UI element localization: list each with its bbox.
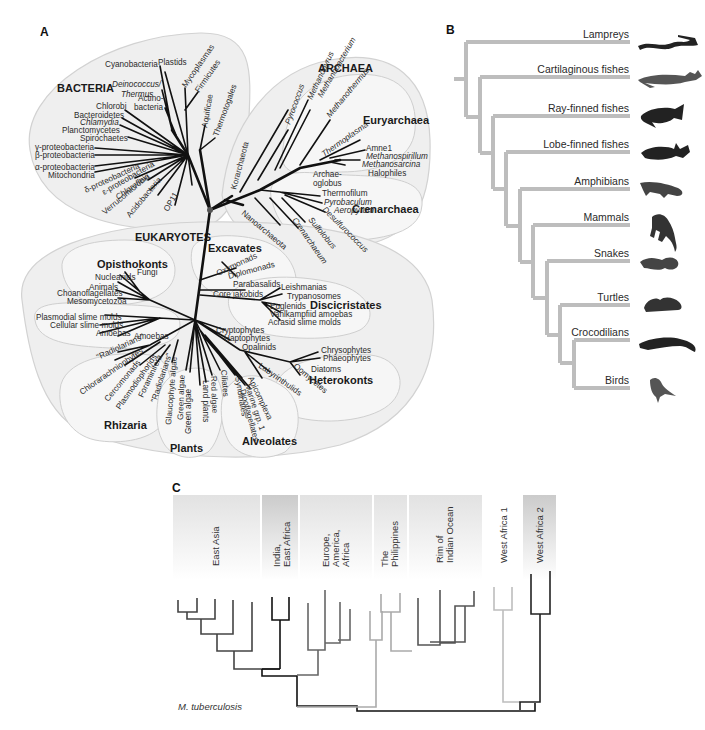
tree-root-node — [207, 207, 213, 213]
vertebrate-labels: Lampreys Cartilaginous fishes Ray-finned… — [537, 28, 629, 386]
svg-text:Mesomycetozoa: Mesomycetozoa — [67, 297, 127, 306]
taxon-lobe-finned-fishes: Lobe-finned fishes — [543, 138, 629, 150]
svg-text:Acrasid slime molds: Acrasid slime molds — [268, 318, 341, 327]
svg-text:Archae-: Archae- — [313, 170, 342, 179]
region-india-line2: East Africa — [281, 521, 292, 567]
svg-text:oglobus: oglobus — [313, 179, 342, 188]
svg-text:Parabasalids: Parabasalids — [233, 280, 280, 289]
taxon-ray-finned-fishes: Ray-finned fishes — [548, 102, 629, 114]
svg-text:Thermofilum: Thermofilum — [322, 189, 368, 198]
region-west-africa-2: West Africa 2 — [534, 507, 545, 563]
panel-b-letter: B — [446, 23, 455, 37]
svg-text:Cyanobacteria: Cyanobacteria — [105, 60, 158, 69]
monkey-icon — [650, 214, 677, 252]
bird-icon — [650, 378, 676, 403]
alveolates-label: Alveolates — [242, 435, 297, 447]
taxon-birds: Birds — [605, 374, 629, 386]
panel-a-letter: A — [40, 25, 49, 39]
region-rim-line2: Indian Ocean — [444, 506, 455, 563]
svg-text:Spirochaetes: Spirochaetes — [80, 134, 128, 143]
turtle-icon — [644, 298, 682, 312]
taxon-crocodilians: Crocodilians — [571, 326, 629, 338]
mtb-phylogeny — [178, 571, 550, 711]
svg-text:Land plants: Land plants — [201, 380, 210, 422]
svg-text:Green algae: Green algae — [184, 388, 193, 434]
taxon-mammals: Mammals — [583, 211, 629, 223]
salamander-icon — [640, 182, 682, 198]
svg-text:Opalinids: Opalinids — [242, 343, 276, 352]
shark-icon — [638, 70, 702, 88]
svg-text:Plastids: Plastids — [158, 58, 187, 67]
bacteria-label: BACTERIA — [57, 82, 114, 94]
figure-canvas: A BACTERIA ARCHAEA EUKARYOTES Euryarchae… — [0, 0, 705, 730]
svg-text:Halophiles: Halophiles — [368, 169, 406, 178]
region-europe-line3: Africa — [340, 542, 351, 567]
svg-text:Leishmanias: Leishmanias — [281, 283, 327, 292]
svg-text:Fungi: Fungi — [137, 268, 158, 277]
svg-text:β-proteobacteria: β-proteobacteria — [35, 151, 95, 160]
svg-text:Aeropyrum: Aeropyrum — [333, 206, 374, 215]
taxon-amphibians: Amphibians — [574, 175, 629, 187]
root-label-m-tuberculosis: M. tuberculosis — [178, 701, 242, 712]
region-east-asia: East Asia — [210, 526, 221, 566]
plants-label: Plants — [170, 442, 203, 454]
svg-text:Core jakobids: Core jakobids — [213, 290, 263, 299]
svg-text:Phaeophytes: Phaeophytes — [323, 354, 371, 363]
svg-text:Chlorobi: Chlorobi — [96, 102, 127, 111]
animal-illustrations — [638, 35, 702, 403]
region-west-africa-1: West Africa 1 — [498, 507, 509, 563]
svg-text:Trypanosomes: Trypanosomes — [287, 292, 341, 301]
crocodile-icon — [639, 338, 696, 352]
taxon-lampreys: Lampreys — [583, 28, 629, 40]
lamprey-icon — [638, 35, 698, 50]
panel-c-letter: C — [172, 481, 181, 495]
euryarchaea-label: Euryarchaea — [363, 114, 430, 126]
svg-text:Deinococcus/: Deinococcus/ — [112, 80, 162, 89]
region-philippines-line2: Philippines — [389, 521, 400, 567]
snake-icon — [640, 258, 678, 270]
taxon-turtles: Turtles — [597, 291, 629, 303]
taxon-cartilaginous-fishes: Cartilaginous fishes — [537, 63, 629, 75]
eukaryotes-label: EUKARYOTES — [135, 231, 211, 243]
rhizaria-label: Rhizaria — [104, 419, 148, 431]
ray-finned-fish-icon — [641, 104, 684, 128]
svg-text:Amoebas: Amoebas — [96, 329, 131, 338]
svg-text:bacteria: bacteria — [134, 103, 164, 112]
svg-text:Actino-: Actino- — [138, 94, 164, 103]
svg-text:Methanosarcina: Methanosarcina — [362, 160, 421, 169]
svg-text:Haptophytes: Haptophytes — [224, 334, 270, 343]
svg-text:Nucleariids: Nucleariids — [95, 273, 136, 282]
taxon-snakes: Snakes — [594, 247, 629, 259]
svg-text:Red algae: Red algae — [209, 376, 219, 414]
svg-text:Diatoms: Diatoms — [311, 365, 341, 374]
svg-text:Mitochondria: Mitochondria — [48, 171, 95, 180]
coelacanth-icon — [641, 143, 690, 160]
